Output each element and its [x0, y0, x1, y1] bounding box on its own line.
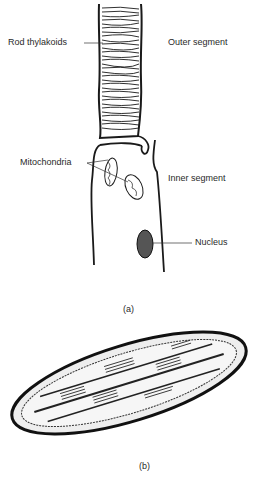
- label-mitochondria: Mitochondria: [20, 157, 72, 167]
- inner-segment-drawing: [91, 136, 164, 272]
- nucleus-drawing: [137, 230, 153, 258]
- rod-ellipsoid-drawing: [1, 311, 256, 455]
- label-nucleus: Nucleus: [195, 237, 228, 247]
- label-outer-segment: Outer segment: [168, 37, 228, 47]
- caption-b: (b): [139, 461, 150, 471]
- label-rod-thylakoids: Rod thylakoids: [8, 37, 67, 47]
- outer-segment-drawing: [99, 4, 142, 138]
- caption-a: (a): [123, 304, 134, 314]
- label-inner-segment: Inner segment: [168, 173, 226, 183]
- mitochondria-drawing: [103, 157, 147, 202]
